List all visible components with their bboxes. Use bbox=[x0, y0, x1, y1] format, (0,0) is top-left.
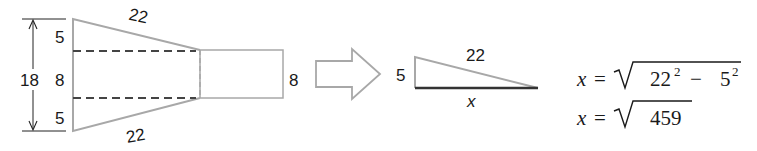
eq2-radicand: 459 bbox=[650, 106, 682, 130]
eq1-equals: = bbox=[594, 67, 606, 91]
eq1-minus: − bbox=[690, 67, 702, 91]
label-middle-segment: 8 bbox=[55, 71, 64, 90]
label-triangle-hypotenuse: 22 bbox=[466, 46, 485, 65]
label-triangle-leg: 5 bbox=[396, 66, 405, 85]
eq1-lhs: x bbox=[576, 67, 587, 91]
label-top-slant: 22 bbox=[127, 5, 149, 28]
eq2-equals: = bbox=[594, 106, 606, 130]
label-triangle-base: x bbox=[466, 92, 476, 111]
eq2-lhs: x bbox=[576, 106, 587, 130]
eq1-b-exp: 2 bbox=[732, 64, 739, 79]
trapezoid bbox=[73, 19, 200, 131]
label-bottom-slant: 22 bbox=[125, 125, 147, 147]
diagram-canvas: 18 5 8 5 22 22 8 5 22 x x = 22 2 − 5 2 x… bbox=[0, 0, 757, 151]
eq1-b: 5 bbox=[720, 67, 731, 91]
label-bottom-segment: 5 bbox=[55, 109, 64, 128]
label-top-segment: 5 bbox=[55, 28, 64, 47]
equation-line-1: x = 22 2 − 5 2 bbox=[576, 62, 741, 91]
eq1-a-exp: 2 bbox=[674, 64, 681, 79]
label-total-height: 18 bbox=[20, 71, 39, 90]
label-rect-height: 8 bbox=[289, 71, 298, 90]
rectangle bbox=[200, 50, 283, 98]
equation-line-2: x = 459 bbox=[576, 101, 692, 130]
right-arrow-icon bbox=[316, 49, 380, 99]
eq1-a: 22 bbox=[650, 67, 671, 91]
